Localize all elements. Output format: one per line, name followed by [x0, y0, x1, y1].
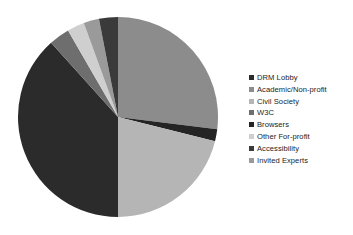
legend-item[interactable]: W3C — [249, 107, 353, 118]
legend-item[interactable]: Other For-profit — [249, 131, 353, 142]
pie-chart-plot-area — [18, 17, 218, 217]
legend-swatch-icon — [249, 87, 254, 92]
legend-item[interactable]: DRM Lobby — [249, 72, 353, 83]
legend-item-label: DRM Lobby — [257, 73, 298, 82]
legend-swatch-icon — [249, 99, 254, 104]
legend-swatch-icon — [249, 110, 254, 115]
legend-item[interactable]: Invited Experts — [249, 154, 353, 165]
pie-slice-group — [18, 17, 218, 217]
legend-item[interactable]: Civil Society — [249, 96, 353, 107]
legend-item-label: Other For-profit — [257, 132, 310, 141]
legend-item-label: Civil Society — [257, 97, 299, 106]
pie-slice — [118, 17, 218, 129]
legend-swatch-icon — [249, 146, 254, 151]
legend-item-label: Invited Experts — [257, 156, 308, 165]
legend-swatch-icon — [249, 75, 254, 80]
pie-chart-svg — [18, 17, 218, 217]
legend-item-label: Accessibility — [257, 144, 299, 153]
legend-item-label: Academic/Non-profit — [257, 85, 327, 94]
legend-item[interactable]: Browsers — [249, 119, 353, 130]
pie-chart-figure: DRM LobbyAcademic/Non-profitCivil Societ… — [0, 0, 353, 235]
legend-item[interactable]: Accessibility — [249, 143, 353, 154]
chart-legend: DRM LobbyAcademic/Non-profitCivil Societ… — [249, 72, 353, 166]
legend-swatch-icon — [249, 122, 254, 127]
legend-item-label: Browsers — [257, 120, 289, 129]
legend-swatch-icon — [249, 134, 254, 139]
legend-item[interactable]: Academic/Non-profit — [249, 84, 353, 95]
legend-item-label: W3C — [257, 108, 274, 117]
legend-swatch-icon — [249, 158, 254, 163]
